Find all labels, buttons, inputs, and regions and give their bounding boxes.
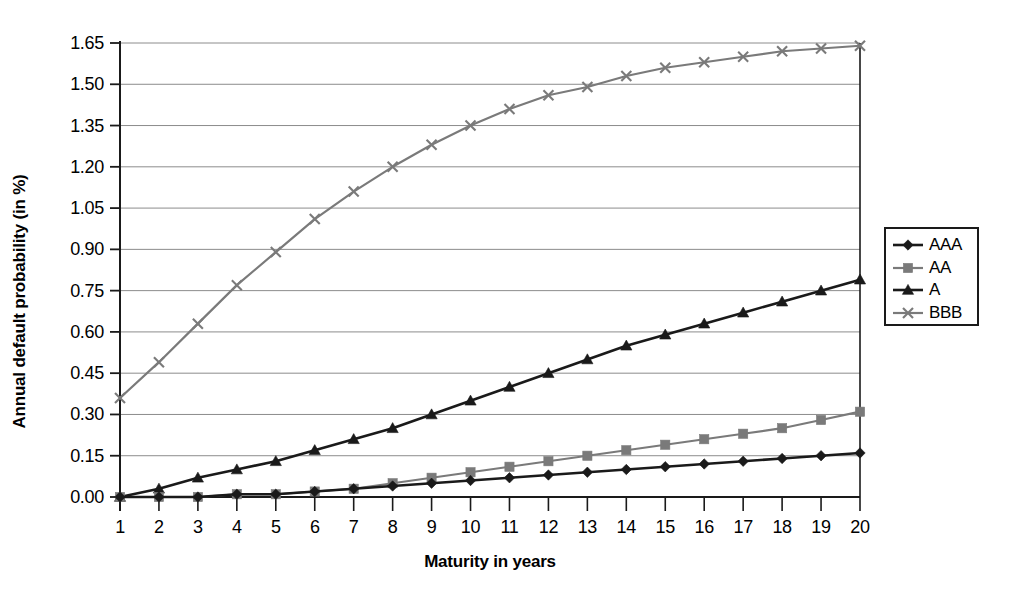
data-point-a bbox=[854, 274, 865, 284]
data-point-bbb bbox=[193, 319, 203, 329]
data-point-bbb bbox=[154, 357, 164, 367]
y-tick-label: 0.75 bbox=[44, 280, 104, 301]
data-point-aaa bbox=[660, 462, 670, 472]
y-tick-label: 0.15 bbox=[44, 445, 104, 466]
series-line-aa bbox=[120, 412, 860, 497]
data-point-bbb bbox=[427, 140, 437, 150]
data-point-aa bbox=[778, 424, 787, 433]
data-point-bbb bbox=[504, 104, 514, 114]
x-tick-label: 14 bbox=[606, 517, 646, 538]
legend-marker-diamond-icon bbox=[891, 234, 925, 256]
series-line-a bbox=[120, 280, 860, 497]
y-tick-label: 0.30 bbox=[44, 404, 104, 425]
x-tick-label: 8 bbox=[373, 517, 413, 538]
data-point-aaa bbox=[621, 464, 631, 474]
legend-item-bbb[interactable]: BBB bbox=[891, 302, 962, 324]
legend-label: A bbox=[929, 280, 940, 300]
x-tick-label: 3 bbox=[178, 517, 218, 538]
data-point-aaa bbox=[855, 448, 865, 458]
x-tick-label: 18 bbox=[762, 517, 802, 538]
x-tick-label: 17 bbox=[723, 517, 763, 538]
data-point-aa bbox=[661, 440, 670, 449]
data-point-aaa bbox=[738, 456, 748, 466]
data-point-aa bbox=[622, 446, 631, 455]
legend-label: BBB bbox=[929, 303, 962, 323]
y-tick-label: 1.35 bbox=[44, 115, 104, 136]
legend-item-aaa[interactable]: AAA bbox=[891, 234, 962, 256]
x-tick-label: 2 bbox=[139, 517, 179, 538]
legend-marker-cross-icon bbox=[891, 302, 925, 324]
x-tick-label: 7 bbox=[334, 517, 374, 538]
x-tick-label: 19 bbox=[801, 517, 841, 538]
data-point-bbb bbox=[232, 280, 242, 290]
series-line-bbb bbox=[120, 46, 860, 398]
x-tick-label: 15 bbox=[645, 517, 685, 538]
y-tick-label: 1.65 bbox=[44, 33, 104, 54]
data-point-aaa bbox=[582, 467, 592, 477]
legend-item-aa[interactable]: AA bbox=[891, 257, 951, 279]
legend-label: AA bbox=[929, 258, 951, 278]
x-tick-label: 6 bbox=[295, 517, 335, 538]
x-tick-label: 1 bbox=[100, 517, 140, 538]
data-point-aa bbox=[505, 462, 514, 471]
x-tick-label: 4 bbox=[217, 517, 257, 538]
x-tick-label: 12 bbox=[528, 517, 568, 538]
data-point-aaa bbox=[504, 473, 514, 483]
data-point-aaa bbox=[699, 459, 709, 469]
data-point-bbb bbox=[271, 247, 281, 257]
y-tick-label: 0.60 bbox=[44, 321, 104, 342]
y-tick-label: 0.00 bbox=[44, 487, 104, 508]
data-point-aa bbox=[739, 429, 748, 438]
data-point-aaa bbox=[543, 470, 553, 480]
x-tick-label: 10 bbox=[451, 517, 491, 538]
legend-label: AAA bbox=[929, 235, 962, 255]
legend-item-a[interactable]: A bbox=[891, 279, 940, 301]
legend: AAAAAABBB bbox=[884, 227, 979, 326]
y-tick-label: 0.90 bbox=[44, 239, 104, 260]
x-tick-label: 9 bbox=[412, 517, 452, 538]
data-point-aa bbox=[816, 415, 825, 424]
legend-marker-triangle-icon bbox=[891, 279, 925, 301]
data-point-aaa bbox=[816, 451, 826, 461]
data-point-aa bbox=[583, 451, 592, 460]
data-point-aa bbox=[855, 407, 864, 416]
y-tick-label: 1.05 bbox=[44, 198, 104, 219]
x-tick-label: 13 bbox=[567, 517, 607, 538]
data-point-bbb bbox=[349, 187, 359, 197]
y-tick-label: 1.50 bbox=[44, 74, 104, 95]
y-tick-label: 1.20 bbox=[44, 156, 104, 177]
data-point-aa bbox=[544, 457, 553, 466]
legend-marker-square-icon bbox=[891, 257, 925, 279]
data-point-aa bbox=[700, 435, 709, 444]
plot-area bbox=[0, 0, 1012, 603]
x-tick-label: 11 bbox=[489, 517, 529, 538]
data-point-bbb bbox=[310, 214, 320, 224]
x-tick-label: 16 bbox=[684, 517, 724, 538]
x-tick-label: 20 bbox=[840, 517, 880, 538]
chart-figure: Annual default probability (in %) Maturi… bbox=[0, 0, 1012, 603]
x-tick-label: 5 bbox=[256, 517, 296, 538]
series-line-aaa bbox=[120, 453, 860, 497]
y-tick-label: 0.45 bbox=[44, 363, 104, 384]
data-point-aaa bbox=[777, 453, 787, 463]
